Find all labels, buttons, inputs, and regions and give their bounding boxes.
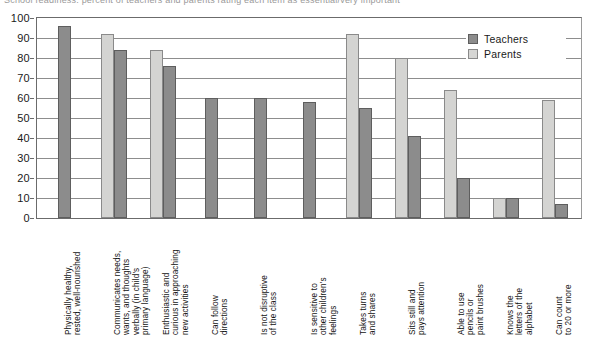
bar-teachers[interactable] bbox=[163, 66, 176, 218]
y-tick-label-90: 90 bbox=[17, 32, 30, 44]
y-tick-label-40: 40 bbox=[17, 132, 30, 144]
bar-teachers[interactable] bbox=[205, 98, 218, 218]
bar-parents[interactable] bbox=[542, 100, 555, 218]
bar-group bbox=[383, 18, 432, 218]
x-label-cell: Takes turnsand shares bbox=[334, 221, 383, 337]
x-label-cell: Can followdirections bbox=[187, 221, 236, 337]
bar-parents[interactable] bbox=[493, 198, 506, 218]
y-tick-label-100: 100 bbox=[11, 12, 30, 24]
bar-group bbox=[236, 18, 285, 218]
x-label-cell: Sits still andpays attention bbox=[383, 221, 432, 337]
y-tick-mark-100 bbox=[30, 18, 34, 19]
bar-group bbox=[285, 18, 334, 218]
x-label-cell: Communicates needs,wants, and thoughtsve… bbox=[88, 221, 137, 337]
y-tick-label-20: 20 bbox=[17, 172, 30, 184]
bar-group bbox=[187, 18, 236, 218]
x-label-cell: Is sensitive toother children'sfeelings bbox=[285, 221, 334, 337]
y-tick-mark-40 bbox=[30, 138, 34, 139]
cropped-header-text: School readiness: percent of teachers an… bbox=[0, 0, 589, 9]
bar-teachers[interactable] bbox=[114, 50, 127, 218]
x-axis-labels: Physically healthy,rested, well-nourishe… bbox=[36, 221, 582, 337]
x-axis-label: Sits still andpays attention bbox=[408, 223, 427, 335]
y-tick-label-60: 60 bbox=[17, 92, 30, 104]
legend-item-teachers[interactable]: Teachers bbox=[466, 31, 566, 46]
y-tick-mark-80 bbox=[30, 58, 34, 59]
y-tick-label-50: 50 bbox=[17, 112, 30, 124]
bar-teachers[interactable] bbox=[506, 198, 519, 218]
bar-parents[interactable] bbox=[346, 34, 359, 218]
bar-group bbox=[138, 18, 187, 218]
bar-parents[interactable] bbox=[444, 90, 457, 218]
bar-group bbox=[40, 18, 89, 218]
x-label-cell: Can countto 20 or more bbox=[531, 221, 580, 337]
y-tick-label-80: 80 bbox=[17, 52, 30, 64]
x-axis-label: Can countto 20 or more bbox=[555, 223, 574, 335]
y-tick-mark-30 bbox=[30, 158, 34, 159]
bar-teachers[interactable] bbox=[408, 136, 421, 218]
legend-label: Parents bbox=[484, 48, 522, 60]
y-tick-mark-90 bbox=[30, 38, 34, 39]
bar-group bbox=[89, 18, 138, 218]
bar-parents[interactable] bbox=[395, 58, 408, 218]
y-tick-mark-60 bbox=[30, 98, 34, 99]
x-label-cell: Knows theletters of thealphabet bbox=[482, 221, 531, 337]
legend-swatch-teachers-icon bbox=[468, 34, 478, 44]
bar-teachers[interactable] bbox=[303, 102, 316, 218]
bar-chart: 0102030405060708090100 TeachersParents P… bbox=[0, 9, 589, 328]
y-tick-mark-70 bbox=[30, 78, 34, 79]
x-label-cell: Enthusiastic andcurious in approachingne… bbox=[137, 221, 186, 337]
y-tick-mark-20 bbox=[30, 178, 34, 179]
y-tick-mark-10 bbox=[30, 198, 34, 199]
y-tick-mark-50 bbox=[30, 118, 34, 119]
x-label-cell: Able to usepencils orpaint brushes bbox=[433, 221, 482, 337]
y-tick-label-30: 30 bbox=[17, 152, 30, 164]
y-tick-label-70: 70 bbox=[17, 72, 30, 84]
x-label-cell: Is not disruptiveof the class bbox=[236, 221, 285, 337]
bar-teachers[interactable] bbox=[555, 204, 568, 218]
x-axis-label: Can followdirections bbox=[211, 223, 230, 335]
y-axis: 0102030405060708090100 bbox=[0, 17, 34, 219]
x-axis-label: Takes turnsand shares bbox=[359, 223, 378, 335]
x-label-cell: Physically healthy,rested, well-nourishe… bbox=[39, 221, 88, 337]
y-tick-label-10: 10 bbox=[17, 192, 30, 204]
cropped-header-label: School readiness: percent of teachers an… bbox=[4, 0, 400, 5]
bar-teachers[interactable] bbox=[58, 26, 71, 218]
bar-teachers[interactable] bbox=[457, 178, 470, 218]
legend: TeachersParents bbox=[466, 31, 566, 61]
legend-swatch-parents-icon bbox=[468, 49, 478, 59]
legend-item-parents[interactable]: Parents bbox=[466, 46, 566, 61]
y-tick-mark-0 bbox=[30, 218, 34, 219]
bar-teachers[interactable] bbox=[254, 98, 267, 218]
bar-group bbox=[334, 18, 383, 218]
legend-label: Teachers bbox=[484, 33, 528, 45]
x-axis-label: Is not disruptiveof the class bbox=[260, 223, 279, 335]
x-axis-label: Physically healthy,rested, well-nourishe… bbox=[64, 223, 83, 335]
bar-parents[interactable] bbox=[101, 34, 114, 218]
bar-parents[interactable] bbox=[150, 50, 163, 218]
bar-teachers[interactable] bbox=[359, 108, 372, 218]
